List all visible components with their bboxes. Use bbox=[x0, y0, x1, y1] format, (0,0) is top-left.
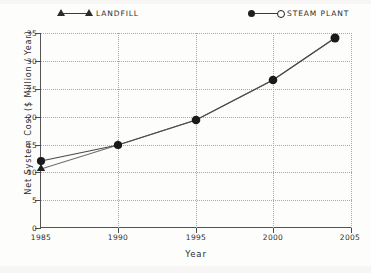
tick-label-y-0: 0 bbox=[15, 224, 37, 233]
triangle-up-icon bbox=[57, 9, 65, 16]
tick-label-x-1985: 1985 bbox=[24, 233, 58, 242]
triangle-up-icon bbox=[85, 9, 93, 16]
gridline-x-1990 bbox=[118, 33, 119, 228]
tick-label-x-1990: 1990 bbox=[101, 233, 135, 242]
legend-label-steam-plant: STEAM PLANT bbox=[287, 9, 349, 18]
chart-screenshot: LANDFILL STEAM PLANT bbox=[0, 0, 371, 273]
legend-item-landfill: LANDFILL bbox=[58, 8, 139, 19]
tick-label-x-2000: 2000 bbox=[256, 233, 290, 242]
circle-open-icon bbox=[277, 10, 285, 18]
tick-label-x-2005: 2005 bbox=[333, 233, 367, 242]
y-axis-title: Net System Cost ($ Million / Year) bbox=[24, 23, 33, 203]
scan-artifact bbox=[0, 0, 371, 4]
gridline-x-1995 bbox=[196, 33, 197, 228]
legend-symbol-steam-plant bbox=[249, 8, 283, 19]
legend-line-icon bbox=[253, 13, 279, 14]
legend-item-steam-plant: STEAM PLANT bbox=[249, 8, 349, 19]
x-axis-title: Year bbox=[40, 249, 352, 259]
legend-symbol-landfill bbox=[58, 8, 92, 19]
gridline-x-2005 bbox=[351, 33, 352, 228]
circle-filled-icon bbox=[248, 10, 255, 17]
scan-artifact bbox=[0, 266, 371, 273]
chart-legend: LANDFILL STEAM PLANT bbox=[0, 6, 371, 28]
gridline-x-2000 bbox=[273, 33, 274, 228]
tick-label-x-1995: 1995 bbox=[179, 233, 213, 242]
legend-label-landfill: LANDFILL bbox=[96, 9, 139, 18]
